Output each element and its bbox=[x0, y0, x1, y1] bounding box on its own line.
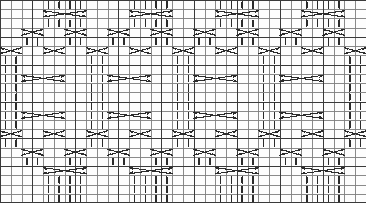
knitting-chart-svg bbox=[0, 0, 366, 203]
knitting-chart-container bbox=[0, 0, 366, 203]
